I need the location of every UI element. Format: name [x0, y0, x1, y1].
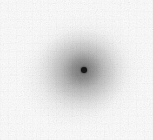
scientific-image-canvas: [0, 0, 153, 140]
inner-core-halo-layer: [0, 0, 153, 140]
central-point-source: [81, 67, 87, 73]
